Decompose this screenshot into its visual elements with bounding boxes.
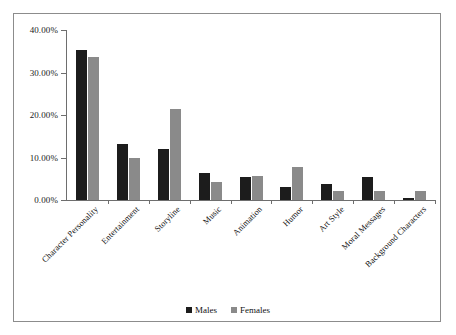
bar-males (76, 50, 87, 200)
legend-item: Females (231, 305, 270, 315)
x-axis-tick (435, 200, 436, 204)
bar-males (117, 144, 128, 200)
x-axis-tick (271, 200, 272, 204)
bar-males (321, 184, 332, 200)
bar-group (117, 30, 140, 200)
bar-females (170, 109, 181, 200)
x-axis-tick (231, 200, 232, 204)
bar-group (158, 30, 181, 200)
bar-females (292, 167, 303, 200)
bar-females (211, 182, 222, 200)
bar-group (362, 30, 385, 200)
y-axis-labels: 40.00%30.00%20.00%10.00%0.00% (0, 0, 58, 335)
bar-females (129, 158, 140, 201)
chart-legend: MalesFemales (0, 305, 456, 315)
bar-females (88, 57, 99, 200)
legend-swatch-icon (186, 307, 192, 313)
bar-group (321, 30, 344, 200)
bar-group (76, 30, 99, 200)
y-axis-tick-label: 40.00% (30, 25, 58, 35)
bar-females (252, 176, 263, 200)
x-axis-line (66, 200, 435, 201)
y-axis-tick-label: 30.00% (30, 68, 58, 78)
x-axis-tick (108, 200, 109, 204)
x-axis-tick (149, 200, 150, 204)
bar-males (362, 177, 373, 200)
plot-area (67, 30, 435, 200)
bar-males (403, 198, 414, 200)
bar-males (240, 177, 251, 200)
y-axis-tick-label: 0.00% (34, 195, 58, 205)
x-axis-tick (394, 200, 395, 204)
bar-group (199, 30, 222, 200)
legend-swatch-icon (231, 307, 237, 313)
bar-group (280, 30, 303, 200)
bar-females (415, 191, 426, 200)
y-axis-tick-label: 20.00% (30, 110, 58, 120)
legend-item: Males (186, 305, 217, 315)
bar-males (199, 173, 210, 200)
legend-label: Females (240, 305, 270, 315)
x-axis-tick (190, 200, 191, 204)
bar-males (158, 149, 169, 200)
x-axis-tick (312, 200, 313, 204)
bar-males (280, 187, 291, 200)
bar-group (240, 30, 263, 200)
legend-label: Males (195, 305, 217, 315)
bar-females (333, 191, 344, 200)
chart-figure: 40.00%30.00%20.00%10.00%0.00% Character … (0, 0, 456, 335)
bar-females (374, 191, 385, 200)
y-axis-tick-label: 10.00% (30, 153, 58, 163)
x-axis-tick (353, 200, 354, 204)
bar-group (403, 30, 426, 200)
